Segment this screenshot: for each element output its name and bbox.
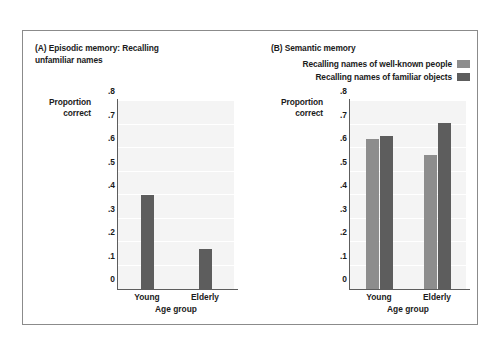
bar	[141, 195, 154, 289]
panel-b-legend: Recalling names of well-known peopleReca…	[265, 57, 470, 83]
y-axis-tick-label: .3	[340, 204, 347, 214]
bar	[366, 139, 379, 289]
legend-item: Recalling names of familiar objects	[265, 70, 470, 83]
y-axis-tick-label: .1	[108, 251, 115, 261]
bar	[424, 155, 437, 289]
panel-a-x-axis-label: Age group	[155, 304, 197, 314]
panel-b-plot-area: 0.1.2.3.4.5.6.7.8 YoungElderly Age group	[350, 101, 466, 289]
legend-item: Recalling names of well-known people	[265, 57, 470, 70]
gridline	[350, 100, 466, 101]
panel-b-y-axis-label: Proportion correct	[261, 97, 323, 119]
y-axis-tick-label: .2	[340, 227, 347, 237]
y-axis-tick-label: .6	[340, 133, 347, 143]
panel-b-title: (B) Semantic memory	[271, 43, 471, 55]
legend-item-label: Recalling names of familiar objects	[315, 72, 452, 82]
y-axis-tick-label: .8	[108, 86, 115, 96]
gridline	[118, 265, 234, 266]
y-axis-tick-label: .5	[108, 157, 115, 167]
x-axis-tick-label: Young	[134, 292, 159, 302]
gridline	[118, 124, 234, 125]
y-axis-tick-label: .3	[108, 204, 115, 214]
bar	[438, 123, 451, 289]
legend-color-swatch	[457, 73, 470, 81]
x-axis-tick-label: Young	[366, 292, 391, 302]
y-axis-tick-label: .5	[340, 157, 347, 167]
panel-a-plot-area: 0.1.2.3.4.5.6.7.8 YoungElderly Age group	[118, 101, 234, 289]
bar	[380, 136, 393, 289]
y-axis-tick-label: 0	[342, 274, 347, 284]
gridline	[118, 171, 234, 172]
y-axis-tick-label: 0	[110, 274, 115, 284]
gridline	[118, 194, 234, 195]
figure-frame: (A) Episodic memory: Recalling unfamilia…	[22, 30, 478, 325]
panel-a-y-axis-label: Proportion correct	[29, 97, 91, 119]
gridline	[118, 241, 234, 242]
y-axis-tick-label: .6	[108, 133, 115, 143]
panel-a-title: (A) Episodic memory: Recalling unfamilia…	[35, 43, 235, 66]
gridline	[118, 218, 234, 219]
y-axis-tick-label: .4	[340, 180, 347, 190]
bar	[199, 249, 212, 289]
panel-a-x-axis-line	[117, 289, 238, 290]
legend-color-swatch	[457, 60, 470, 68]
panel-b-semantic-memory: (B) Semantic memory Recalling names of w…	[251, 31, 479, 324]
y-axis-tick-label: .7	[340, 110, 347, 120]
panel-b-x-axis-label: Age group	[387, 304, 429, 314]
x-axis-tick-label: Elderly	[191, 292, 219, 302]
y-axis-tick-label: .8	[340, 86, 347, 96]
y-axis-tick-label: .2	[108, 227, 115, 237]
y-axis-tick-label: .1	[340, 251, 347, 261]
gridline	[118, 100, 234, 101]
y-axis-tick-label: .7	[108, 110, 115, 120]
gridline	[118, 147, 234, 148]
y-axis-tick-label: .4	[108, 180, 115, 190]
x-axis-tick-label: Elderly	[423, 292, 451, 302]
legend-item-label: Recalling names of well-known people	[302, 59, 452, 69]
panel-a-episodic-memory: (A) Episodic memory: Recalling unfamilia…	[23, 31, 251, 324]
